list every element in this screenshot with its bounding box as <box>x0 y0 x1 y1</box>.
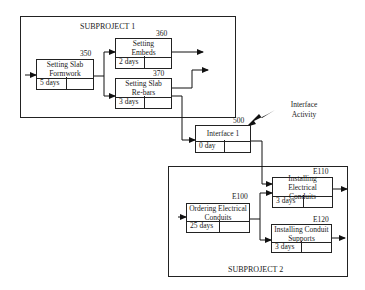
activity-370-id: 370 <box>153 70 164 78</box>
activity-e120-id: E120 <box>313 216 329 224</box>
activity-duration: 5 days <box>37 77 67 89</box>
interface-duration: 0 day <box>196 140 225 152</box>
activity-e120[interactable]: Installing Conduit Supports 3 days <box>271 224 332 253</box>
activity-350[interactable]: Setting Slab Formwork 5 days <box>36 59 94 90</box>
interface-activity[interactable]: Interface 1 0 day <box>195 125 251 153</box>
activity-duration: 2 days <box>116 56 145 68</box>
interface-callout-label: Interface Activity <box>289 100 319 120</box>
activity-duration: 25 days <box>187 220 220 232</box>
activity-duration: 3 days <box>116 96 145 108</box>
activity-360[interactable]: Setting Embeds 2 days <box>115 38 172 69</box>
activity-e100-id: E100 <box>232 193 248 201</box>
activity-360-id: 360 <box>156 30 167 38</box>
activity-duration: 3 days <box>273 195 304 207</box>
activity-e100[interactable]: Ordering Electrical Conduits 25 days <box>186 203 250 233</box>
interface-id: 500 <box>233 117 244 125</box>
activity-duration: 3 days <box>272 241 302 252</box>
activity-370[interactable]: Setting Slab Re-bars 3 days <box>115 78 172 109</box>
activity-e110[interactable]: Installing Electrical Conduits 3 days <box>272 177 333 208</box>
activity-350-id: 350 <box>80 50 91 58</box>
